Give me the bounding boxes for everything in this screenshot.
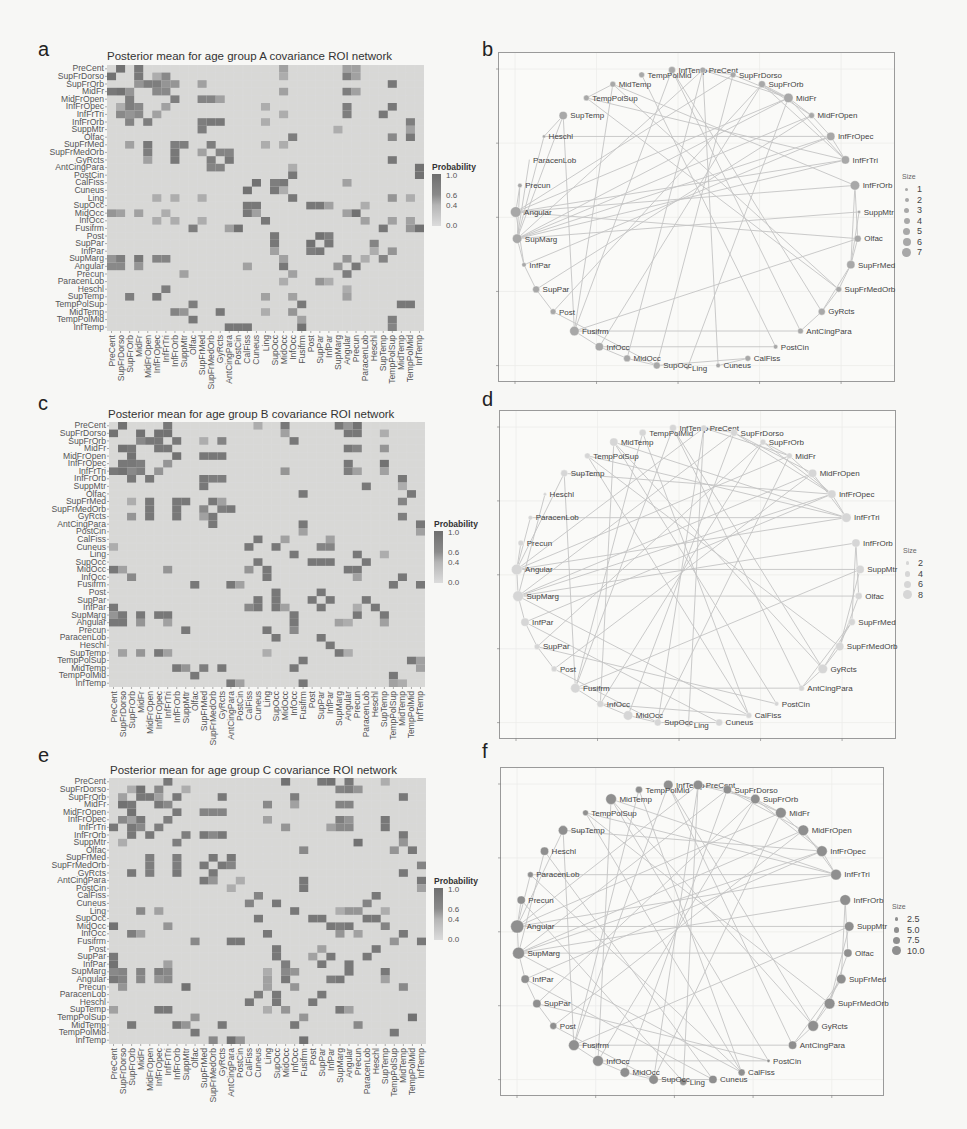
- heatmap-cell: [417, 862, 426, 870]
- network-node-label: MidOcc: [633, 1068, 660, 1077]
- size-dot-icon: [904, 581, 911, 588]
- heatmap-cell: [118, 839, 127, 847]
- network-node-label: SupTemp: [571, 826, 605, 835]
- heatmap-cell: [335, 801, 344, 809]
- heatmap-cell: [245, 900, 254, 908]
- heatmap-cell: [272, 900, 281, 908]
- network-node-label: TempPolMid: [648, 71, 692, 80]
- size-legend-label: 5.0: [907, 925, 920, 935]
- heatmap-cell: [335, 1006, 344, 1014]
- heatmap-cell: [154, 1006, 163, 1014]
- size-legend-entry: 2: [903, 558, 923, 569]
- heatmap-cell: [299, 884, 308, 892]
- network-node-label: SupPar: [543, 285, 570, 294]
- heatmap-cell: [127, 801, 136, 809]
- size-dot-icon: [904, 218, 910, 224]
- size-legend-entry: 6: [902, 237, 922, 248]
- heatmap-cell: [163, 960, 172, 968]
- network-node: [798, 825, 809, 836]
- heatmap-cell: [254, 892, 263, 900]
- size-legend-label: 2.5: [907, 914, 920, 924]
- heatmap-cell: [227, 854, 236, 862]
- heatmap-cell: [399, 869, 408, 877]
- network-node: [844, 949, 852, 957]
- heatmap-cell: [145, 831, 154, 839]
- network-node: [533, 1000, 541, 1008]
- heatmap-cell: [290, 801, 299, 809]
- heatmap-cell: [191, 1014, 200, 1022]
- network-node-label: TempPolSup: [592, 94, 638, 103]
- network-node: [597, 700, 604, 707]
- heatmap-cell: [308, 915, 317, 923]
- heatmap-cell: [218, 793, 227, 801]
- network-node-label: SupOcc: [661, 1075, 689, 1084]
- network-node-label: ParacenLob: [536, 513, 580, 522]
- network-edge: [852, 543, 856, 622]
- size-legend-title: Size: [903, 547, 923, 554]
- network-node: [776, 807, 787, 818]
- heatmap-cell: [344, 778, 353, 786]
- network-edge: [554, 473, 812, 669]
- heatmap-cell: [326, 778, 335, 786]
- network-node-label: PostCin: [781, 343, 809, 352]
- heatmap-cell: [372, 892, 381, 900]
- size-legend-title: Size: [892, 903, 925, 910]
- network-node-label: SuppMtr: [867, 565, 898, 574]
- size-dot-icon: [905, 198, 909, 202]
- network-node: [635, 786, 642, 793]
- heatmap-cell: [218, 831, 227, 839]
- size-dot-icon: [893, 937, 900, 944]
- heatmap-cell: [236, 1036, 245, 1044]
- heatmap-cell: [191, 1029, 200, 1037]
- network-node-label: InfFrTri: [854, 513, 880, 522]
- network-node-label: Cuneus: [720, 1075, 748, 1084]
- heatmap-cell: [181, 1021, 190, 1029]
- network-node: [558, 826, 567, 835]
- network-node: [700, 67, 706, 73]
- network-node-label: InfFrOpec: [830, 847, 866, 856]
- size-legend-label: 7.5: [907, 935, 920, 945]
- heatmap-cell: [163, 968, 172, 976]
- network-node-label: SupFrOrb: [763, 795, 799, 804]
- network-node-label: SupFrDorso: [734, 786, 778, 795]
- network-node-label: MidTemp: [619, 80, 652, 89]
- size-legend-title: Size: [902, 173, 922, 180]
- network-edge: [519, 953, 742, 1072]
- network-node-label: Olfac: [865, 592, 884, 601]
- heatmap-cell: [317, 945, 326, 953]
- heatmap-cell: [227, 884, 236, 892]
- network-node: [513, 947, 525, 959]
- network-node: [856, 565, 864, 573]
- network-node-label: Post: [559, 308, 576, 317]
- heatmap-cell: [354, 786, 363, 794]
- network-node-label: GyRcts: [828, 307, 854, 316]
- network-node-label: SupPar: [544, 999, 571, 1008]
- heatmap-cell: [344, 907, 353, 915]
- network-node: [773, 344, 777, 348]
- network-node: [521, 618, 529, 626]
- network-node: [827, 132, 835, 140]
- heatmap-cell: [181, 983, 190, 991]
- heatmap-cell: [344, 968, 353, 976]
- network-node-label: SupTemp: [570, 111, 604, 120]
- network-node-label: CalFiss: [755, 711, 782, 720]
- heatmap-cell: [163, 1006, 172, 1014]
- heatmap-cell: [127, 869, 136, 877]
- size-dot-icon: [903, 590, 912, 599]
- network-node-label: Precun: [528, 896, 553, 905]
- heatmap-cell: [209, 877, 218, 885]
- heatmap-cell: [236, 938, 245, 946]
- heatmap-cell: [408, 1014, 417, 1022]
- network-node: [808, 469, 816, 477]
- size-legend-f: Size2.55.07.510.0: [892, 903, 925, 956]
- network-node-label: Angular: [527, 922, 555, 931]
- network-edge: [658, 456, 790, 723]
- network-node: [841, 156, 849, 164]
- network-node-label: SupFrDorso: [741, 429, 785, 438]
- network-edge: [627, 70, 703, 358]
- size-legend-label: 5: [917, 226, 922, 236]
- heatmap-cell: [154, 801, 163, 809]
- heatmap-cell: [145, 854, 154, 862]
- network-node-label: InfFrOpec: [838, 132, 874, 141]
- network-node-label: Fusifrm: [582, 1041, 609, 1050]
